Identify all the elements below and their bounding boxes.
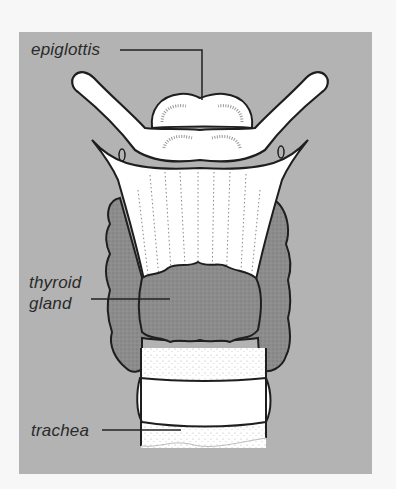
label-trachea: trachea [31,421,89,440]
label-epiglottis: epiglottis [31,40,100,59]
trachea [137,348,270,448]
thyroid-isthmus [139,262,261,342]
label-thyroid-line1: thyroid [29,273,81,292]
larynx-illustration [0,0,396,489]
label-thyroid-line2: gland [29,294,72,313]
